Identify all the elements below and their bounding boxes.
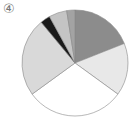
pie-chart: [0, 0, 135, 125]
